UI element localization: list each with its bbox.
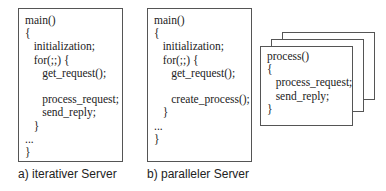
iterative-server-caption: a) iterativer Server xyxy=(18,167,117,181)
parallel-server-caption: b) paralleler Server xyxy=(147,167,249,181)
iterative-server-box: main() { initialization; for(;;) { get_r… xyxy=(18,8,123,162)
process-code: process() { process_request; send_reply;… xyxy=(267,50,352,116)
parallel-server-code: main() { initialization; for(;;) { get_r… xyxy=(154,14,250,146)
iterative-server-code: main() { initialization; for(;;) { get_r… xyxy=(25,14,119,159)
parallel-server-box: main() { initialization; for(;;) { get_r… xyxy=(147,8,252,162)
process-box-front: process() { process_request; send_reply;… xyxy=(260,46,353,126)
